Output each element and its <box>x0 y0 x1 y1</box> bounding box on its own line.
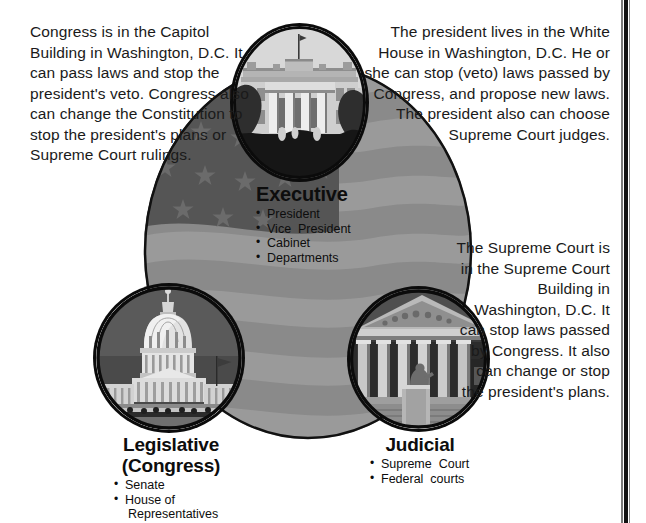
legislative-branch-caption: Legislative (Congress) Senate House ofRe… <box>92 434 282 522</box>
legislative-branch-members: Senate House ofRepresentatives <box>114 478 282 522</box>
judicial-branch-caption: Judicial Supreme Court Federal courts <box>350 434 530 486</box>
judicial-description: The Supreme Court is in the Supreme Cour… <box>452 238 610 402</box>
list-item: House ofRepresentatives <box>114 493 282 522</box>
legislative-description: Congress is in the Capitol Building in W… <box>30 22 258 166</box>
list-item: Supreme Court <box>370 457 530 472</box>
capitol-building-photo <box>96 286 242 430</box>
executive-branch-title: Executive <box>256 184 351 205</box>
list-item: Cabinet <box>256 236 351 251</box>
judicial-branch-members: Supreme Court Federal courts <box>370 457 530 486</box>
infographic-canvas: Congress is in the Capitol Building in W… <box>0 0 646 523</box>
legislative-branch-subtitle: (Congress) <box>92 455 250 476</box>
list-item: Federal courts <box>370 472 530 487</box>
executive-branch-caption: Executive President Vice President Cabin… <box>256 184 351 265</box>
page-border-rule-thick <box>624 0 628 523</box>
executive-description: The president lives in the White House i… <box>352 22 610 145</box>
list-item: Vice President <box>256 222 351 237</box>
judicial-branch-title: Judicial <box>350 434 490 455</box>
legislative-branch-title: Legislative <box>92 434 250 455</box>
list-item: President <box>256 207 351 222</box>
list-item: Departments <box>256 251 351 266</box>
executive-branch-members: President Vice President Cabinet Departm… <box>256 207 351 265</box>
list-item-line1: House of <box>125 493 175 507</box>
list-item: Senate <box>114 478 282 493</box>
page-border-rule-outer <box>629 0 630 523</box>
list-item-line2: Representatives <box>125 507 282 522</box>
page-border-rule-thin <box>621 0 623 523</box>
